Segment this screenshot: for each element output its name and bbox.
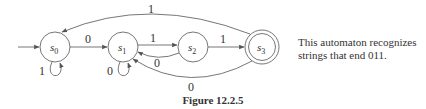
edge-s3-s0 [62,14,250,34]
edge-label-s2-s3: 1 [220,32,226,46]
state-label-s2: s2 [188,41,196,56]
figure-caption: Figure 12.2.5 [0,94,426,106]
edge-s1-self [118,62,129,76]
edge-label-s1-self: 0 [107,64,113,78]
edge-label-s0-s1: 0 [85,32,91,46]
edge-label-s3-s1: 0 [188,80,194,94]
edge-label-s3-s0: 1 [148,2,154,16]
edge-label-s2-s1: 0 [154,56,160,70]
description-line-1: This automaton recognizes [298,36,426,49]
automaton-description: This automaton recognizes strings that e… [298,36,426,62]
edge-s0-self [50,62,61,76]
edge-label-s1-s2: 1 [150,31,156,45]
state-label-s0: s0 [50,41,58,56]
state-label-s1: s1 [118,41,126,56]
edge-label-s0-self: 1 [39,64,45,78]
description-line-2: strings that end 011. [298,49,426,62]
state-label-s3: s3 [257,41,265,56]
